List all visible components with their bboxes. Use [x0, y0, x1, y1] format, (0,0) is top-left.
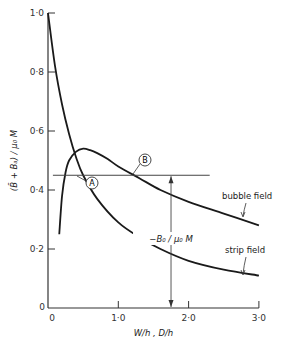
- marker-a-label: A: [89, 179, 95, 188]
- y-tick-label: 1·0: [30, 8, 45, 18]
- y-tick-label: 0·4: [30, 185, 45, 195]
- y-tick-label: 0·8: [30, 67, 45, 77]
- arrow-down-icon: [169, 300, 174, 307]
- strip-field-label: strip field: [225, 245, 265, 255]
- chart: 0·20·40·60·81·01·02·03·000W/h , D/h(B̄ +…: [0, 0, 281, 344]
- x-origin-label: 0: [49, 313, 55, 323]
- x-axis-label: W/h , D/h: [134, 328, 174, 338]
- bias-field-label: −B₀ / μ₀ M: [149, 234, 193, 244]
- arrow-up-icon: [169, 176, 174, 183]
- y-origin-label: 0: [39, 302, 45, 312]
- y-axis-label: (B̄ + Bₐ) / μ₀ M: [8, 129, 19, 191]
- marker-b-label: B: [142, 156, 148, 165]
- marker-b-pointer: [133, 164, 140, 174]
- y-tick-label: 0·6: [30, 126, 45, 136]
- y-tick-label: 0·2: [30, 244, 44, 254]
- bubble-field-label: bubble field: [222, 191, 272, 201]
- x-tick-label: 2·0: [181, 313, 196, 323]
- x-tick-label: 1·0: [111, 313, 126, 323]
- annotations: −B₀ / μ₀ MABbubble fieldstrip field: [53, 154, 272, 307]
- axes: 0·20·40·60·81·01·02·03·000W/h , D/h(B̄ +…: [8, 8, 266, 338]
- x-tick-label: 3·0: [252, 313, 267, 323]
